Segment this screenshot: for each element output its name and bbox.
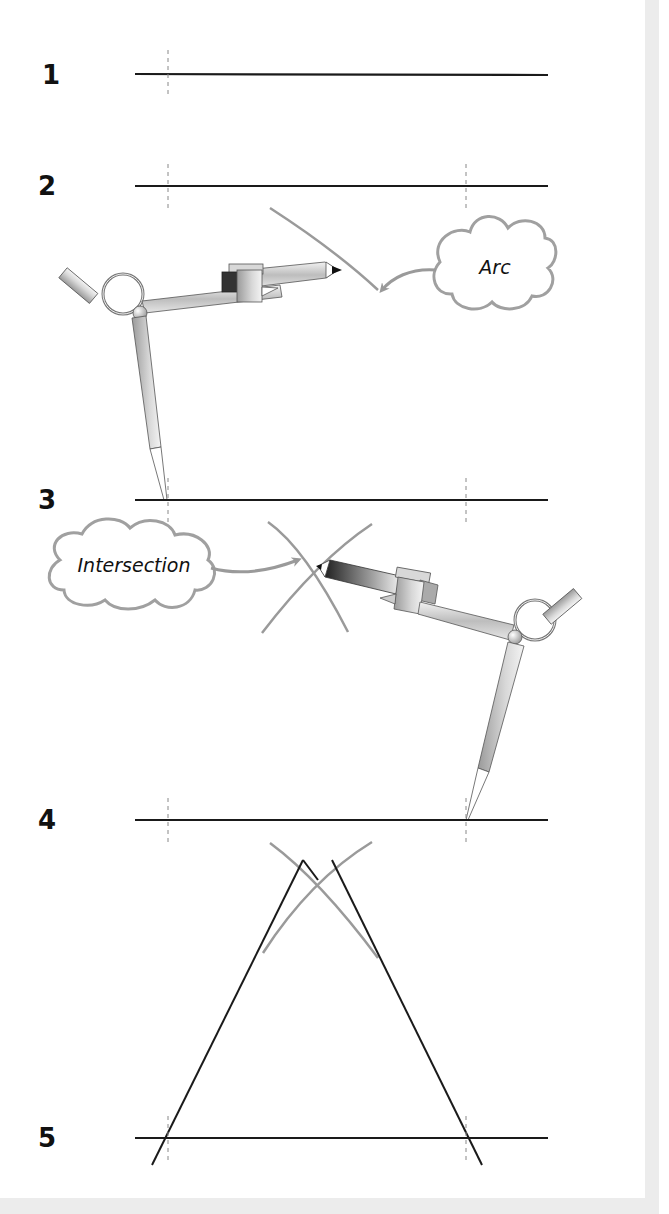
step-5-arc-left — [270, 843, 378, 958]
construction-diagram: Arc Intersection — [0, 0, 669, 1214]
arc-callout: Arc — [382, 216, 556, 309]
step-3-group: Intersection — [49, 478, 582, 820]
compass-icon — [59, 262, 342, 500]
step-2-group: Arc — [59, 164, 556, 500]
step-4-group — [135, 798, 548, 842]
arc-callout-arrow — [382, 270, 436, 290]
intersection-callout: Intersection — [49, 519, 298, 609]
compass-icon-mirrored — [316, 560, 582, 820]
step-1-group — [135, 50, 548, 98]
triangle-right-side — [332, 860, 482, 1165]
intersection-callout-label: Intersection — [77, 554, 190, 576]
arc-callout-label: Arc — [477, 256, 511, 278]
step-1-base-line — [135, 74, 548, 75]
step-5-group — [135, 842, 548, 1165]
step-5-arc-right — [263, 842, 372, 953]
triangle-left-side — [152, 860, 303, 1165]
intersection-callout-arrow — [211, 560, 298, 572]
